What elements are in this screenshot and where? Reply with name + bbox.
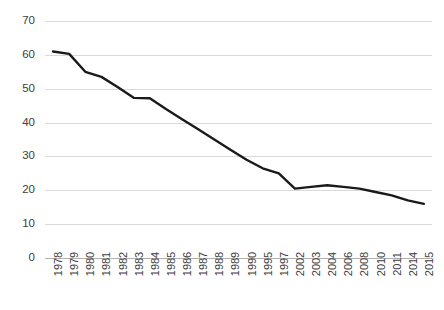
x-tick-label-1990: 1990 xyxy=(247,252,258,276)
x-tick-label-2006: 2006 xyxy=(343,252,354,276)
x-axis: 1978197919801981198219831984198519861987… xyxy=(45,261,432,309)
x-tick-label-1981: 1981 xyxy=(101,252,112,276)
x-tick-label-1980: 1980 xyxy=(85,252,96,276)
x-tick-label-2008: 2008 xyxy=(359,252,370,276)
y-tick-label-20: 20 xyxy=(22,185,35,197)
plot-area xyxy=(45,21,432,258)
x-tick-label-1986: 1986 xyxy=(182,252,193,276)
x-tick-label-1983: 1983 xyxy=(134,252,145,276)
data-series-line xyxy=(45,21,432,258)
x-tick-label-1989: 1989 xyxy=(230,252,241,276)
x-tick-label-2004: 2004 xyxy=(327,252,338,276)
x-tick-label-1982: 1982 xyxy=(118,252,129,276)
y-tick-label-0: 0 xyxy=(29,252,35,264)
y-tick-label-60: 60 xyxy=(22,49,35,61)
x-tick-label-1987: 1987 xyxy=(198,252,209,276)
x-tick-label-2011: 2011 xyxy=(392,252,403,276)
y-tick-label-50: 50 xyxy=(22,83,35,95)
x-tick-label-1984: 1984 xyxy=(150,252,161,276)
x-tick-label-2010: 2010 xyxy=(376,252,387,276)
x-tick-label-2014: 2014 xyxy=(408,252,419,276)
x-tick-label-2003: 2003 xyxy=(311,252,322,276)
y-tick-label-30: 30 xyxy=(22,151,35,163)
x-tick-label-1988: 1988 xyxy=(214,252,225,276)
x-tick-label-1995: 1995 xyxy=(263,252,274,276)
x-tick-label-1979: 1979 xyxy=(69,252,80,276)
line-chart: 010203040506070 197819791980198119821983… xyxy=(0,0,444,310)
y-axis: 010203040506070 xyxy=(0,0,45,310)
x-tick-label-1978: 1978 xyxy=(53,252,64,276)
x-tick-label-1985: 1985 xyxy=(166,252,177,276)
y-tick-label-10: 10 xyxy=(22,218,35,230)
y-tick-label-40: 40 xyxy=(22,117,35,129)
series-polyline xyxy=(53,51,424,203)
y-tick-label-70: 70 xyxy=(22,15,35,27)
x-tick-label-1997: 1997 xyxy=(279,252,290,276)
x-tick-label-2015: 2015 xyxy=(424,252,435,276)
x-tick-label-2002: 2002 xyxy=(295,252,306,276)
